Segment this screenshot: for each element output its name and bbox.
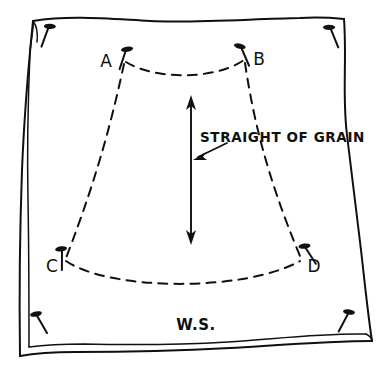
pattern-edge-a-to-b [126, 60, 244, 75]
pin-bottom-left [28, 307, 52, 336]
pattern-piece-outline [66, 60, 300, 284]
label-point-a: A [100, 51, 112, 71]
fabric-edge-left-outer [20, 21, 33, 356]
pin-shaft [331, 29, 338, 48]
pin-head [343, 309, 356, 316]
pin-shaft [60, 250, 64, 270]
pin-head [121, 46, 134, 53]
pin-head [233, 42, 246, 50]
pin-bottom-right [333, 305, 357, 335]
pin-head [298, 243, 310, 249]
label-point-c: C [46, 256, 58, 276]
leader-arrow-head [193, 152, 207, 160]
pattern-edge-a-to-c [66, 64, 124, 258]
grain-label-leader [193, 143, 227, 160]
pin-shaft [37, 316, 47, 333]
diagram-canvas: A B C D STRAIGHT OF GRAIN W.S. [0, 0, 392, 374]
pattern-edge-b-to-d [245, 63, 300, 256]
label-straight-of-grain: STRAIGHT OF GRAIN [200, 129, 365, 145]
pin-top-left [36, 20, 57, 49]
label-wrong-side: W.S. [176, 316, 216, 334]
label-point-d: D [307, 256, 320, 276]
pin-head [30, 310, 43, 318]
pin-head [44, 24, 56, 30]
straight-of-grain-arrow [186, 95, 196, 245]
pin-shaft [339, 314, 348, 332]
label-point-b: B [253, 49, 265, 69]
fabric-edge-right [344, 19, 372, 341]
pin-head [323, 25, 335, 30]
pin-head [55, 245, 68, 252]
pin-point-a [117, 44, 134, 71]
fabric-outline-group [20, 18, 372, 356]
pin-shaft [41, 28, 48, 47]
fabric-edge-top [33, 18, 344, 22]
pattern-edge-c-to-d [66, 261, 300, 284]
fabric-edge-bottom-inner [29, 334, 366, 347]
pin-point-b [232, 40, 250, 68]
fabric-pattern-diagram: A B C D STRAIGHT OF GRAIN W.S. [0, 0, 392, 374]
pin-top-right [321, 21, 343, 51]
